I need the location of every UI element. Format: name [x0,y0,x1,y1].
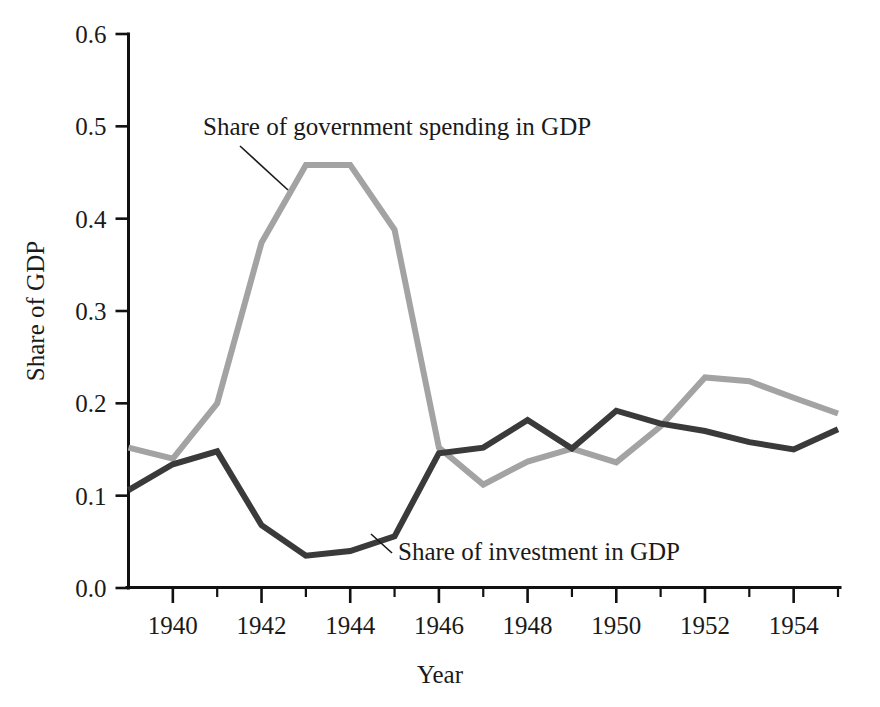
x-tick-labels: 19401942194419461948195019521954 [148,612,819,639]
x-tick-label-1942: 1942 [237,612,287,639]
x-axis-title: Year [417,661,464,688]
y-tick-labels: 0.00.10.20.30.40.50.6 [75,21,107,602]
x-tick-label-1946: 1946 [414,612,464,639]
y-tick-label-0.1: 0.1 [75,483,106,510]
x-tick-label-1950: 1950 [591,612,641,639]
x-tick-label-1940: 1940 [148,612,198,639]
annotation-label-investment: Share of investment in GDP [398,538,680,565]
x-tick-label-1954: 1954 [769,612,820,639]
y-tick-marks [116,34,129,588]
y-tick-label-0.4: 0.4 [75,206,107,233]
y-tick-label-0.2: 0.2 [75,390,106,417]
y-axis-title: Share of GDP [22,241,49,381]
y-tick-label-0.6: 0.6 [75,21,106,48]
series-group [129,165,839,556]
x-tick-label-1944: 1944 [325,612,376,639]
x-tick-label-1948: 1948 [503,612,553,639]
y-tick-label-0.5: 0.5 [75,113,106,140]
line-chart: 0.00.10.20.30.40.50.6 194019421944194619… [0,0,880,707]
annotation-label-government-spending: Share of government spending in GDP [203,113,591,140]
annotation-leader-line-government [240,146,288,190]
chart-container: 0.00.10.20.30.40.50.6 194019421944194619… [0,0,880,707]
y-tick-label-0.3: 0.3 [75,298,106,325]
annotations-group: Share of government spending in GDP Shar… [203,113,680,565]
x-tick-label-1952: 1952 [680,612,730,639]
y-tick-label-0.0: 0.0 [75,575,106,602]
